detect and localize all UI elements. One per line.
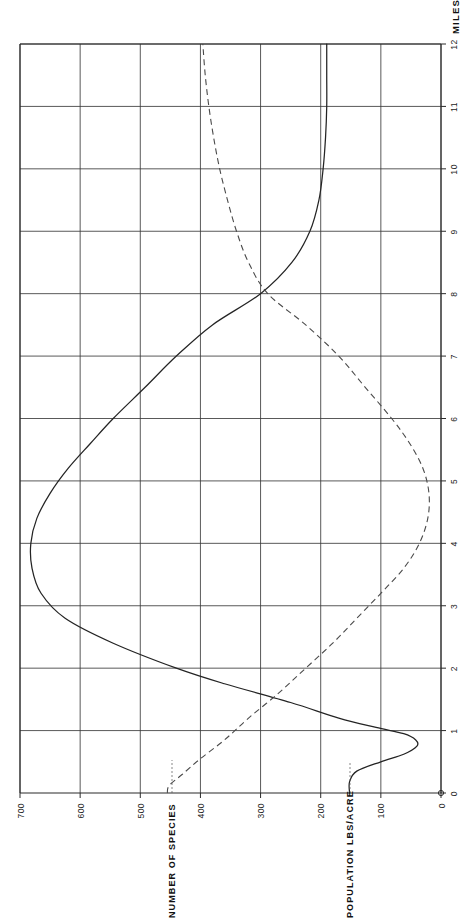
miles-axis-title: MILES [450, 0, 461, 34]
tick-label-miles: 3 [449, 604, 459, 609]
value-axis-tick-labels: 0100200300400500600700 [16, 803, 447, 818]
tick-label-value: 700 [16, 803, 26, 818]
tick-label-value: 600 [76, 803, 86, 818]
tick-label-value: 400 [196, 803, 206, 818]
tick-marks-miles [441, 44, 446, 793]
tick-label-value: 100 [376, 803, 386, 818]
tick-label-miles: 11 [449, 102, 459, 112]
tick-label-value: 0 [437, 803, 447, 808]
tick-label-value: 300 [256, 803, 266, 818]
tick-label-miles: 12 [449, 39, 459, 50]
tick-marks-value [20, 793, 441, 798]
tick-label-miles: 6 [449, 416, 459, 421]
chart-figure: 0100200300400500600700 0123456789101112 … [0, 0, 466, 923]
tick-label-miles: 0 [449, 791, 459, 796]
tick-label-miles: 2 [449, 666, 459, 671]
tick-label-value: 200 [316, 803, 326, 818]
tick-label-miles: 10 [449, 164, 459, 175]
tick-label-miles: 9 [449, 229, 459, 234]
tick-label-miles: 8 [449, 292, 459, 297]
miles-axis-tick-labels: 0123456789101112 [449, 39, 459, 796]
tick-label-value: 500 [136, 803, 146, 818]
tick-label-miles: 5 [449, 479, 459, 484]
tick-label-miles: 1 [449, 728, 459, 733]
chart-canvas: 0100200300400500600700 0123456789101112 … [0, 0, 466, 923]
series-label-population: POPULATION LBS/ACRE [345, 790, 355, 918]
grid-lines-miles [20, 44, 441, 731]
tick-label-miles: 7 [449, 354, 459, 359]
tick-label-miles: 4 [449, 541, 459, 546]
series-label-species: NUMBER OF SPECIES [167, 803, 177, 918]
